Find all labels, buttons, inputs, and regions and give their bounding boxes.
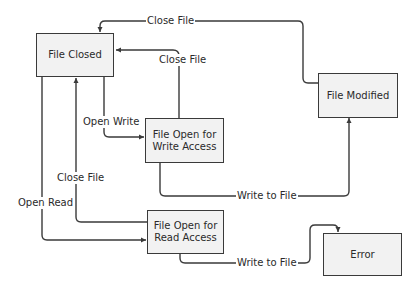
label-write-to-file-error: Write to File — [236, 257, 298, 269]
label-close-file-read: Close File — [56, 172, 105, 184]
label-write-to-file-modified: Write to File — [236, 190, 298, 202]
label-close-file-modified: Close File — [146, 15, 195, 27]
arrow-modified-to-closed — [100, 21, 318, 83]
label-close-file-write: Close File — [158, 54, 207, 66]
state-file-open-read: File Open for Read Access — [147, 210, 224, 254]
state-file-open-write: File Open for Write Access — [145, 118, 224, 163]
arrow-read-to-closed — [76, 78, 147, 222]
state-file-modified: File Modified — [318, 73, 398, 118]
label-open-read: Open Read — [17, 197, 74, 209]
label-open-write: Open Write — [82, 116, 140, 128]
state-file-closed: File Closed — [36, 33, 114, 77]
state-error: Error — [323, 233, 402, 276]
arrow-closed-to-read — [42, 76, 146, 240]
